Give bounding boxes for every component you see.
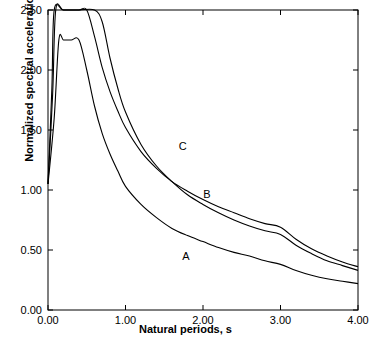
spectral-acceleration-chart: 0.001.002.003.004.000.000.501.001.502.00… [0,0,371,345]
series-line-B [48,4,358,271]
x-axis-label: Natural periods, s [0,323,371,335]
y-tick-label: 1.00 [21,184,42,196]
plot-frame [48,10,358,310]
series-label-C: C [179,140,187,152]
series-line-A [48,34,358,283]
series-label-B: B [203,188,210,200]
y-axis-label-text: Normalized spectral acceleration, s [23,0,35,162]
y-axis-label: Normalized spectral acceleration, se [23,0,38,178]
series-label-A: A [182,250,190,262]
y-tick-label: 0.50 [21,244,42,256]
y-tick-label: 0.00 [21,304,42,316]
series-line-C [48,4,358,267]
plot-area: 0.001.002.003.004.000.000.501.001.502.00… [0,0,371,345]
